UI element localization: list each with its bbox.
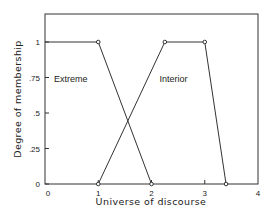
series-lines (45, 40, 228, 186)
y-tick-label: .75 (29, 74, 41, 83)
data-point-marker (150, 182, 154, 186)
x-axis-title: Universe of discourse (96, 196, 207, 207)
data-point-marker (163, 40, 167, 44)
y-tick-label: 1 (36, 38, 41, 47)
y-axis-title: Degree of membership (12, 40, 23, 158)
series-line-extreme (45, 42, 152, 184)
y-tick-label: .5 (33, 109, 40, 118)
data-point-marker (203, 40, 207, 44)
y-tick-label: .25 (29, 145, 41, 154)
data-point-marker (224, 182, 228, 186)
series-label-extreme: Extreme (54, 74, 88, 84)
series-line-interior (98, 42, 226, 184)
series-label-interior: Interior (159, 74, 187, 84)
x-tick-label: 0 (46, 189, 51, 198)
y-axis-ticks: 0.25.5.751 (29, 38, 49, 189)
data-point-marker (96, 182, 100, 186)
data-point-marker (96, 40, 100, 44)
x-tick-label: 4 (256, 189, 261, 198)
y-tick-label: 0 (36, 180, 41, 189)
series-labels: ExtremeInterior (54, 74, 187, 84)
plot-frame (45, 14, 258, 184)
membership-function-chart: 01234 0.25.5.751 ExtremeInterior Univers… (0, 0, 274, 215)
